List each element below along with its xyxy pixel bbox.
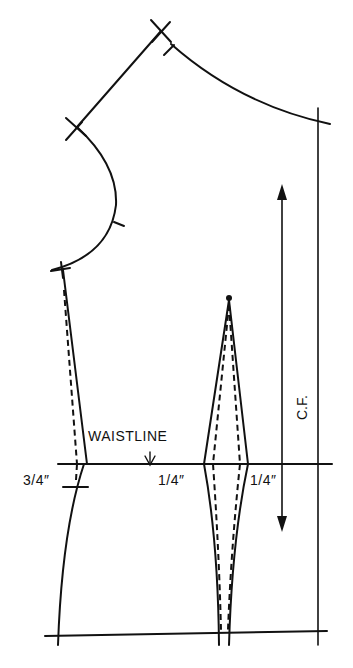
dart-leg-left	[204, 300, 229, 464]
arrow-down-icon	[277, 516, 287, 532]
armhole-curve	[52, 127, 116, 270]
dart-left-measure-label: 1/4″	[158, 472, 184, 488]
dart-lower-left	[204, 464, 219, 645]
dart-right-measure-label: 1/4″	[250, 472, 276, 488]
arrow-up-icon	[277, 184, 287, 200]
pattern-drawing	[0, 0, 353, 668]
side-measure-label: 3/4″	[23, 472, 49, 488]
waistline-label: WAISTLINE	[88, 428, 167, 444]
center-front-label: C.F.	[294, 395, 310, 420]
dart-apex-dot	[226, 295, 232, 301]
dart-dashed-lower-right	[228, 464, 240, 630]
neckline-curve	[171, 44, 330, 124]
side-seam-lower	[58, 464, 84, 645]
hem-line	[45, 631, 327, 636]
side-seam-dashed	[64, 290, 77, 464]
shoulder-line	[77, 31, 161, 127]
armhole-notch	[114, 222, 124, 226]
